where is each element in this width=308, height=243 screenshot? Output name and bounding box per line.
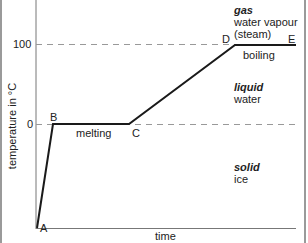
- x-axis-label: time: [155, 230, 176, 242]
- solid-substance-text: ice: [234, 173, 260, 185]
- point-label-c: C: [132, 127, 140, 139]
- gas-substance-text: water vapour: [234, 16, 298, 28]
- boiling-label: boiling: [243, 49, 275, 61]
- liquid-substance-text: water: [234, 93, 263, 105]
- point-label-b: B: [50, 111, 57, 123]
- point-label-d: D: [222, 33, 230, 45]
- solid-state-text: solid: [234, 161, 260, 173]
- point-label-a: A: [40, 222, 47, 234]
- gas-state-text: gas: [234, 4, 298, 16]
- gas-region-label: gas water vapour (steam): [234, 4, 298, 40]
- melting-label: melting: [76, 127, 111, 139]
- liquid-region-label: liquid water: [234, 81, 263, 105]
- y-tick-0: 0: [27, 118, 33, 130]
- y-tick-100: 100: [13, 38, 31, 50]
- y-axis-label: temperature in °C: [6, 83, 18, 169]
- solid-region-label: solid ice: [234, 161, 260, 185]
- liquid-state-text: liquid: [234, 81, 263, 93]
- gas-note-text: (steam): [234, 28, 298, 40]
